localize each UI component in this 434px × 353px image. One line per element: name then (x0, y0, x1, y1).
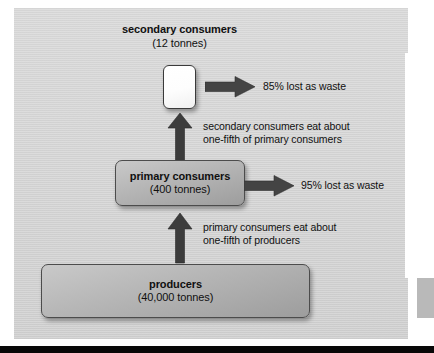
secondary-consumers-title: secondary consumers (68, 22, 291, 36)
background-white-top-right (408, 0, 434, 53)
primary-transfer-arrow-icon (167, 212, 193, 264)
secondary-waste-arrow-icon (205, 76, 257, 98)
primary-consumers-box: primary consumers (400 tonnes) (115, 160, 245, 206)
secondary-waste-text: 85% lost as waste (263, 80, 346, 93)
secondary-transfer-arrow-icon (167, 112, 193, 162)
secondary-transfer-note-line1: secondary consumers eat about (203, 120, 350, 133)
background-white-bottom-strip (0, 339, 434, 346)
secondary-transfer-note: secondary consumers eat about one-fifth … (203, 120, 350, 146)
background-gray-bottom-right (417, 278, 434, 318)
primary-transfer-note-line1: primary consumers eat about (203, 221, 336, 234)
primary-transfer-note-line2: one-fifth of producers (203, 234, 336, 247)
secondary-consumers-label: secondary consumers (12 tonnes) (68, 22, 291, 50)
primary-transfer-note: primary consumers eat about one-fifth of… (203, 221, 336, 247)
secondary-consumers-amount: (12 tonnes) (68, 36, 291, 50)
producers-box: producers (40,000 tonnes) (41, 264, 310, 318)
background-white-right (405, 53, 434, 278)
background-white-left-margin (0, 0, 14, 346)
primary-consumers-amount: (400 tonnes) (150, 183, 211, 196)
secondary-consumers-box (163, 65, 196, 109)
bottom-black-bar (0, 346, 434, 353)
producers-amount: (40,000 tonnes) (138, 291, 214, 304)
secondary-transfer-note-line2: one-fifth of primary consumers (203, 133, 350, 146)
primary-waste-arrow-icon (244, 175, 296, 197)
primary-waste-text: 95% lost as waste (301, 179, 384, 192)
primary-consumers-title: primary consumers (130, 170, 230, 183)
producers-title: producers (149, 278, 202, 291)
diagram-canvas: secondary consumers (12 tonnes) 85% lost… (0, 0, 434, 353)
